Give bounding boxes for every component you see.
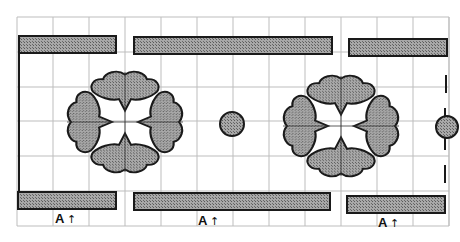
bottom-bar: [134, 193, 330, 210]
label-letter: A: [198, 213, 208, 228]
top-bar: [19, 36, 116, 53]
bottom-bar: [18, 192, 116, 209]
top-bar: [349, 39, 447, 56]
section-label: A↑: [378, 215, 399, 230]
pattern-diagram: A↑A↑A↑: [0, 0, 460, 242]
up-arrow-icon: ↑: [67, 213, 76, 226]
up-arrow-icon: ↑: [210, 215, 219, 228]
center-circle: [220, 112, 244, 136]
top-bar: [134, 37, 332, 54]
bottom-bar: [347, 196, 445, 213]
center-circle: [436, 116, 458, 138]
circles: [220, 112, 458, 138]
flower-motif: [283, 76, 399, 177]
section-label: A↑: [55, 211, 76, 226]
up-arrow-icon: ↑: [390, 217, 399, 230]
label-letter: A: [378, 215, 388, 230]
label-letter: A: [55, 211, 65, 226]
